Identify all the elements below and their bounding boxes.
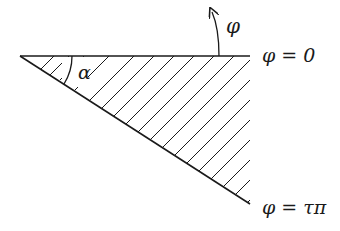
wedge-diagram: α φ φ = 0 φ = τπ (0, 0, 340, 231)
angle-label: α (78, 61, 91, 83)
bottom-boundary-line (20, 56, 250, 204)
direction-label: φ (226, 14, 240, 38)
bottom-boundary-label: φ = τπ (262, 196, 327, 218)
direction-arrow-icon (212, 12, 219, 56)
top-boundary-label: φ = 0 (262, 44, 315, 66)
